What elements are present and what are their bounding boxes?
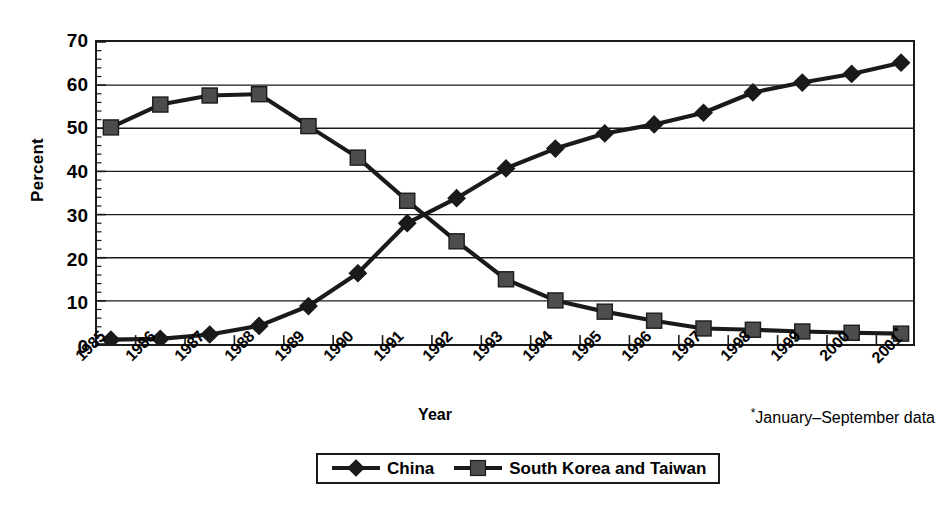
data-point-marker — [893, 54, 910, 71]
chart-figure: Percent 010203040506070 1985198619871988… — [0, 0, 939, 508]
data-point-marker — [153, 97, 168, 112]
legend-diamond-marker-icon — [330, 458, 382, 478]
data-point-marker — [794, 74, 811, 91]
legend-label: China — [387, 460, 434, 477]
y-tick-label: 60 — [28, 74, 88, 93]
x-axis-tick-labels: 1985198619871988198919901991199219931994… — [95, 352, 915, 410]
y-tick-label: 10 — [28, 293, 88, 312]
footnote-text: January–September data — [755, 409, 935, 426]
data-point-marker — [597, 304, 612, 319]
data-point-marker — [744, 84, 761, 101]
x-axis-title: Year — [370, 406, 500, 424]
legend-entry: South Korea and Taiwan — [452, 458, 706, 478]
data-point-marker — [103, 120, 118, 135]
data-point-marker — [843, 66, 860, 83]
data-point-marker — [350, 150, 365, 165]
legend-square-marker-icon — [452, 458, 504, 478]
y-tick-label: 50 — [28, 118, 88, 137]
data-point-marker — [301, 119, 316, 134]
data-point-marker — [449, 234, 464, 249]
y-tick-label: 40 — [28, 162, 88, 181]
data-point-marker — [547, 140, 564, 157]
chart-legend: ChinaSouth Korea and Taiwan — [316, 453, 720, 484]
data-point-marker — [695, 104, 712, 121]
plot-area — [95, 40, 915, 346]
legend-marker — [471, 461, 486, 476]
data-point-marker — [596, 125, 613, 142]
y-tick-label: 70 — [28, 31, 88, 50]
series-line-0 — [111, 63, 901, 340]
legend-label: South Korea and Taiwan — [509, 460, 706, 477]
data-point-marker — [252, 87, 267, 102]
data-point-marker — [251, 317, 268, 334]
data-point-marker — [400, 193, 415, 208]
data-point-marker — [646, 116, 663, 133]
legend-entry: China — [330, 458, 434, 478]
y-tick-label: 20 — [28, 249, 88, 268]
line-chart-canvas — [97, 42, 913, 344]
data-point-marker — [498, 272, 513, 287]
legend-marker — [348, 460, 364, 476]
data-point-marker — [647, 313, 662, 328]
y-tick-label: 30 — [28, 205, 88, 224]
y-axis-tick-labels: 010203040506070 — [28, 40, 88, 346]
footnote: *January–September data — [650, 406, 935, 427]
data-point-marker — [548, 293, 563, 308]
data-point-marker — [202, 88, 217, 103]
